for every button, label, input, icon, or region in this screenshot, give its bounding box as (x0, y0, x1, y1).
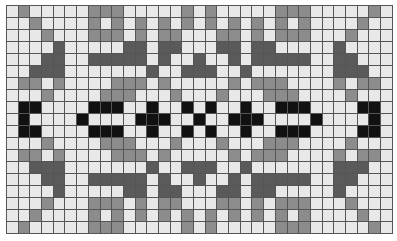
grid-cell (251, 173, 263, 185)
grid-cell (228, 149, 240, 161)
grid-cell (251, 101, 263, 113)
grid-cell (88, 17, 100, 29)
grid-cell (88, 101, 100, 113)
grid-cell (53, 89, 65, 101)
grid-cell (64, 161, 76, 173)
grid-cell (146, 221, 158, 233)
grid-cell (275, 5, 287, 17)
grid-cell (158, 221, 170, 233)
grid-cell (29, 5, 41, 17)
grid-cell (6, 209, 18, 221)
grid-cell (228, 41, 240, 53)
grid-cell (18, 221, 30, 233)
grid-cell (146, 65, 158, 77)
grid-cell (333, 65, 345, 77)
grid-cell (216, 17, 228, 29)
grid-cell (345, 137, 357, 149)
grid-cell (76, 137, 88, 149)
grid-cell (345, 125, 357, 137)
grid-cell (6, 53, 18, 65)
grid-cell (310, 221, 322, 233)
grid-cell (228, 101, 240, 113)
grid-cell (170, 101, 182, 113)
grid-cell (170, 137, 182, 149)
grid-cell (310, 125, 322, 137)
grid-cell (146, 77, 158, 89)
grid-cell (64, 197, 76, 209)
grid-cell (333, 137, 345, 149)
grid-cell (53, 209, 65, 221)
grid-cell (193, 101, 205, 113)
grid-cell (322, 89, 334, 101)
grid-cell (170, 209, 182, 221)
grid-cell (263, 173, 275, 185)
grid-cell (368, 89, 380, 101)
grid-cell (380, 41, 392, 53)
grid-cell (158, 149, 170, 161)
grid-cell (287, 53, 299, 65)
grid-cell (18, 89, 30, 101)
grid-cell (181, 77, 193, 89)
grid-cell (29, 17, 41, 29)
grid-cell (322, 5, 334, 17)
grid-cell (6, 101, 18, 113)
grid-cell (357, 197, 369, 209)
grid-cell (76, 65, 88, 77)
grid-cell (205, 149, 217, 161)
grid-cell (29, 89, 41, 101)
grid-cell (146, 113, 158, 125)
grid-cell (333, 209, 345, 221)
grid-cell (41, 5, 53, 17)
grid-cell (333, 161, 345, 173)
grid-cell (240, 221, 252, 233)
grid-cell (18, 5, 30, 17)
grid-cell (158, 65, 170, 77)
grid-cell (111, 5, 123, 17)
grid-cell (29, 101, 41, 113)
grid-cell (193, 89, 205, 101)
grid-cell (158, 137, 170, 149)
grid-cell (135, 185, 147, 197)
grid-cell (146, 53, 158, 65)
grid-cell (357, 89, 369, 101)
grid-cell (310, 149, 322, 161)
grid-cell (298, 5, 310, 17)
grid-cell (275, 209, 287, 221)
grid-cell (251, 65, 263, 77)
grid-cell (123, 125, 135, 137)
grid-cell (29, 197, 41, 209)
grid-cell (357, 77, 369, 89)
grid-cell (53, 77, 65, 89)
grid-cell (380, 113, 392, 125)
grid-cell (216, 41, 228, 53)
grid-cell (76, 89, 88, 101)
grid-cell (123, 53, 135, 65)
grid-cell (205, 221, 217, 233)
grid-cell (100, 197, 112, 209)
grid-cell (100, 221, 112, 233)
grid-cell (251, 89, 263, 101)
grid-cell (205, 137, 217, 149)
grid-cell (123, 197, 135, 209)
grid-cell (100, 185, 112, 197)
grid-cell (216, 149, 228, 161)
grid-cell (41, 17, 53, 29)
grid-cell (181, 197, 193, 209)
grid-cell (6, 89, 18, 101)
grid-cell (193, 173, 205, 185)
grid-cell (216, 137, 228, 149)
grid-cell (193, 137, 205, 149)
grid-cell (240, 113, 252, 125)
grid-cell (322, 209, 334, 221)
grid-cell (205, 29, 217, 41)
grid-cell (135, 101, 147, 113)
grid-cell (216, 65, 228, 77)
grid-cell (18, 53, 30, 65)
grid-cell (181, 41, 193, 53)
grid-cell (111, 125, 123, 137)
grid-cell (240, 65, 252, 77)
grid-cell (357, 53, 369, 65)
grid-cell (158, 197, 170, 209)
grid-cell (64, 173, 76, 185)
grid-cell (228, 125, 240, 137)
